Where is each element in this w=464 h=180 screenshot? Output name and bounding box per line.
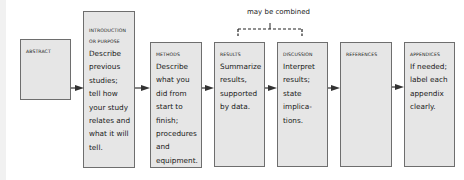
combined-bracket [236,22,316,36]
box-body: Interpret results; state implica-tions. [283,60,324,127]
box-heading: REFERENCES [346,51,388,59]
box-heading: APPENDICES [410,51,451,59]
box-body: Describe what you did from start to fini… [156,60,198,167]
box-body: Summarize results, supported by data. [220,60,261,114]
box-heading: INTRODUCTION [89,27,131,35]
box-abstract: ABSTRACT [20,39,71,100]
box-results: RESULTS Summarize results, supported by … [214,42,265,167]
arrow-right-icon [392,84,404,90]
box-appendices: APPENDICES If needed; label each appendi… [404,42,455,167]
arrow-right-icon [265,85,277,91]
box-methods: METHODS Describe what you did from start… [150,42,202,168]
box-body: Describe previous studies; tell how your… [89,47,131,154]
left-margin-strip [0,0,6,180]
box-discussion: DISCUSSION Interpret results; state impl… [277,42,328,167]
box-subheading: or PURPOSE [89,38,131,46]
arrow-right-icon [202,85,214,91]
box-references: REFERENCES [340,42,392,167]
may-be-combined-label: may be combined [247,8,327,16]
box-heading: DISCUSSION [283,51,324,59]
arrow-right-icon [71,85,84,91]
box-body: If needed; label each appendix clearly. [410,60,451,114]
arrow-right-icon [328,85,340,91]
arrow-right-icon [135,85,150,91]
box-heading: METHODS [156,51,198,59]
box-heading: RESULTS [220,51,261,59]
box-introduction: INTRODUCTION or PURPOSE Describe previou… [83,11,135,168]
box-heading: ABSTRACT [26,48,67,56]
